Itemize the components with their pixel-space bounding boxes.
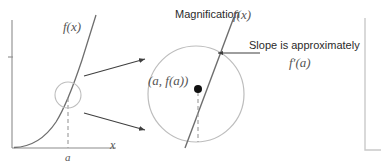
magnification-connector-arrows bbox=[84, 59, 145, 130]
label-slope-text: Slope is approximately bbox=[249, 40, 360, 51]
connector-arrow-top bbox=[84, 59, 145, 76]
page-frame-edge bbox=[365, 18, 381, 150]
label-fx-right: f(x) bbox=[233, 8, 251, 21]
function-curve bbox=[14, 15, 96, 148]
label-a-axis-tick: a bbox=[65, 152, 71, 163]
diagram-canvas bbox=[0, 0, 381, 168]
label-magnification: Magnification bbox=[175, 9, 240, 20]
figure-magnification-diagram: f(x) a x Magnification f(x) Slope is app… bbox=[0, 0, 381, 168]
label-fprime-a: f′(a) bbox=[289, 56, 311, 69]
connector-arrow-bottom bbox=[84, 113, 145, 130]
label-x-axis: x bbox=[110, 139, 115, 151]
tangent-point-dot bbox=[194, 85, 202, 93]
tangent-line bbox=[185, 17, 234, 148]
label-point-coordinates: (a, f(a)) bbox=[148, 74, 188, 87]
left-curve-group bbox=[14, 15, 96, 148]
magnification-circle bbox=[148, 46, 244, 142]
focus-circle bbox=[55, 82, 81, 108]
label-fx-left: f(x) bbox=[63, 20, 81, 33]
